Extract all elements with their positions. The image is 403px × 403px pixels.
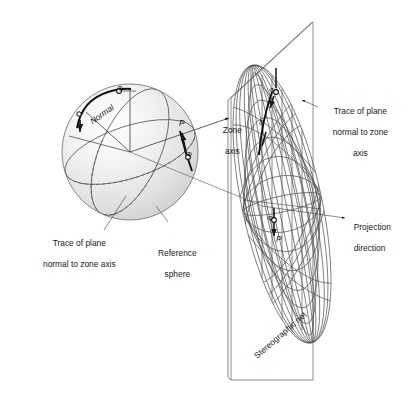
phi-lower-net-label: Φ [267, 214, 273, 224]
delta-net-label: δ [259, 118, 263, 128]
projection-line1: Projection [354, 222, 391, 232]
trace-sphere-line2: normal to zone axis [43, 259, 116, 269]
projection-line2: direction [354, 243, 386, 253]
figure-canvas: Normal Zone axis P Φ Φ Trace of plane no… [0, 0, 403, 403]
reference-sphere-line2: sphere [165, 269, 191, 279]
phi-right-sphere-label: Φ [186, 150, 192, 160]
trace-sphere-line1: Trace of plane [53, 238, 106, 248]
trace-of-plane-net-label: Trace of plane normal to zone axis [316, 96, 400, 158]
trace-net-line3: axis [353, 148, 368, 158]
trace-net-line2: normal to zone [333, 127, 388, 137]
trace-of-plane-sphere-label: Trace of plane normal to zone axis [22, 228, 132, 270]
zone-axis-line2: axis [225, 146, 240, 156]
trace-net-line1: Trace of plane [334, 106, 387, 116]
phi-upper-sphere-label: Φ [117, 84, 123, 94]
diagram-svg [0, 0, 403, 403]
zone-axis-line1: Zone [223, 125, 242, 135]
phi-upper-net-label: Φ [269, 86, 275, 96]
point-p-net-label: P [276, 234, 282, 244]
pole-marker-upper-2 [77, 112, 81, 116]
reference-sphere-label: Reference sphere [144, 238, 206, 280]
point-p-sphere-label: P [179, 118, 185, 128]
projection-direction-label: Projection direction [349, 212, 403, 254]
reference-sphere-line1: Reference [158, 248, 197, 258]
zone-axis-label: Zone axis [209, 115, 251, 157]
